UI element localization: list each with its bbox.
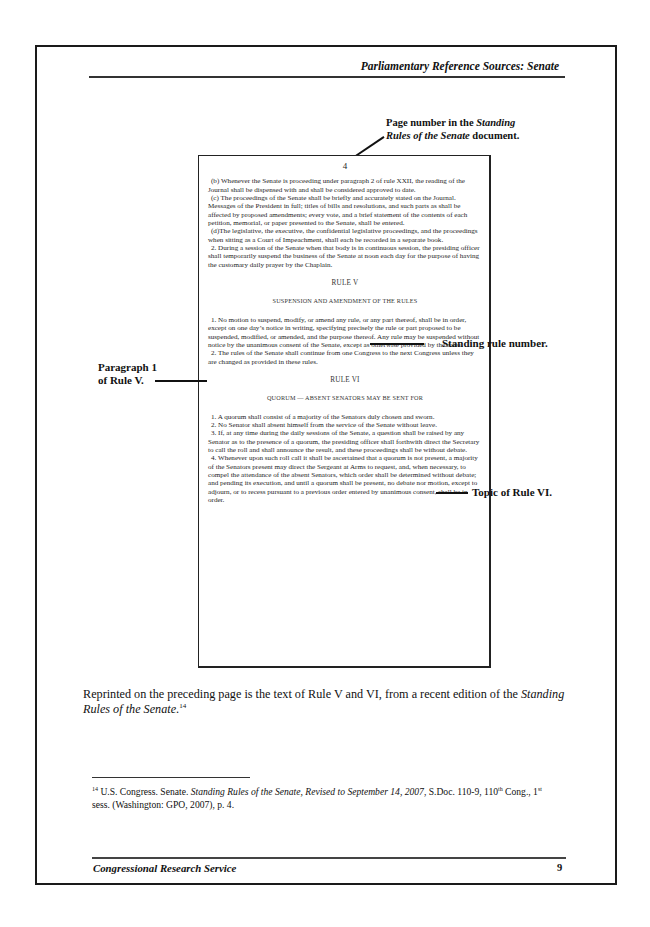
rule-vi-heading: RULE VI xyxy=(208,376,482,384)
footer-rule xyxy=(92,857,566,859)
callout-page-number: Page number in the Standing Rules of the… xyxy=(386,116,519,142)
running-header: Parliamentary Reference Sources: Senate xyxy=(361,60,559,72)
rule-v-paragraph-2: 2. The rules of the Senate shall continu… xyxy=(208,349,482,366)
body-paragraph: Reprinted on the preceding page is the t… xyxy=(83,687,573,717)
excerpt-paragraph: (d)The legislative, the executive, the c… xyxy=(208,227,482,244)
callout-text-italic: Standing xyxy=(476,117,515,128)
footnote-text: sess. (Washington: GPO, 2007), p. 4. xyxy=(92,799,234,810)
footnote-reference[interactable]: 14 xyxy=(179,702,186,710)
callout-text: Page number in the xyxy=(386,117,476,128)
callout-topic: Topic of Rule VI. xyxy=(472,486,552,499)
callout-rule-number: Standing rule number. xyxy=(442,337,548,350)
excerpt-page-number: 4 xyxy=(208,162,482,170)
rule-v-heading: RULE V xyxy=(208,279,482,287)
callout-text: document. xyxy=(470,130,520,141)
header-rule xyxy=(89,76,565,78)
callout-text-italic: Rules of the Senate xyxy=(386,130,470,141)
arrow-paragraph-1 xyxy=(155,380,207,382)
footnote-separator xyxy=(92,777,250,778)
rule-v-subject: SUSPENSION AND AMENDMENT OF THE RULES xyxy=(208,297,482,305)
rule-v-paragraph-1: 1. No motion to suspend, modify, or amen… xyxy=(208,316,482,349)
excerpt-paragraph: (b) Whenever the Senate is proceeding un… xyxy=(208,177,482,194)
rule-vi-subject: QUORUM — ABSENT SENATORS MAY BE SENT FOR xyxy=(208,394,482,402)
footnote-title: Standing Rules of the Senate, Revised to… xyxy=(191,786,424,797)
footnote-text: , S.Doc. 110-9, 110 xyxy=(424,786,498,797)
callout-text: of Rule V. xyxy=(98,374,144,386)
body-text: Reprinted on the preceding page is the t… xyxy=(83,687,521,701)
footnote-text: U.S. Congress. Senate. xyxy=(98,786,191,797)
footnote-ordinal: st xyxy=(538,786,542,792)
excerpt-paragraph: (c) The proceedings of the Senate shall … xyxy=(208,194,482,227)
arrow-rule-number xyxy=(370,343,424,345)
rule-vi-paragraph-3: 3. If, at any time during the daily sess… xyxy=(208,429,482,454)
footnote-text: Cong., 1 xyxy=(503,786,538,797)
callout-paragraph-1: Paragraph 1 of Rule V. xyxy=(98,361,157,387)
footer-organization: Congressional Research Service xyxy=(93,862,236,874)
excerpt-paragraph: 2. During a session of the Senate when t… xyxy=(208,244,482,269)
rule-vi-paragraph-1: 1. A quorum shall consist of a majority … xyxy=(208,413,482,421)
arrow-topic xyxy=(436,492,468,494)
footnote: 14 U.S. Congress. Senate. Standing Rules… xyxy=(92,785,562,811)
rule-vi-paragraph-2: 2. No Senator shall absent himself from … xyxy=(208,421,482,429)
excerpt-content: 4 (b) Whenever the Senate is proceeding … xyxy=(208,162,482,504)
rule-vi-paragraph-4: 4. Whenever upon such roll call it shall… xyxy=(208,454,482,504)
standing-rules-excerpt: 4 (b) Whenever the Senate is proceeding … xyxy=(198,155,491,668)
footer-page-number: 9 xyxy=(557,862,562,873)
callout-text: Paragraph 1 xyxy=(98,361,157,373)
